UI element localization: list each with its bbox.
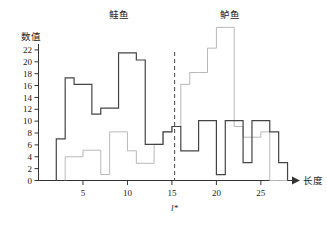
x-axis-arrowhead: [292, 177, 300, 185]
x-tick-label: 15: [167, 188, 177, 198]
y-tick-label: 16: [23, 81, 33, 91]
y-tick-label: 8: [28, 128, 33, 138]
x-axis-title: 长度: [303, 175, 323, 186]
chart-canvas: 鲑鱼 鲈鱼 数值 0246810121416182022 510152025 长…: [0, 0, 327, 227]
x-tick-label: 20: [212, 188, 222, 198]
fish-length-histogram-figure: 鲑鱼 鲈鱼 数值 0246810121416182022 510152025 长…: [0, 0, 327, 227]
y-tick-label: 12: [23, 104, 32, 114]
y-axis-ticks-group: 0246810121416182022: [23, 45, 39, 186]
salmon-histogram-outline: [56, 53, 287, 181]
y-tick-label: 0: [28, 176, 33, 186]
seabass-histogram-outline: [65, 27, 287, 180]
x-tick-label: 10: [123, 188, 133, 198]
y-tick-label: 20: [23, 57, 33, 67]
x-tick-label: 5: [81, 188, 86, 198]
y-tick-label: 6: [28, 140, 33, 150]
y-tick-label: 2: [28, 164, 33, 174]
y-tick-label: 22: [23, 45, 32, 55]
salmon-class-label: 鲑鱼: [109, 9, 129, 20]
class-labels-group: 鲑鱼 鲈鱼: [109, 9, 240, 20]
y-tick-label: 18: [23, 69, 33, 79]
x-tick-label: 25: [256, 188, 266, 198]
seabass-class-label: 鲈鱼: [220, 9, 240, 20]
y-tick-label: 4: [28, 152, 33, 162]
y-tick-label: 14: [23, 93, 33, 103]
x-axis-ticks-group: 510152025: [81, 181, 266, 199]
y-axis-title: 数值: [21, 31, 41, 42]
y-tick-label: 10: [23, 116, 33, 126]
threshold-label: l*: [171, 203, 179, 213]
